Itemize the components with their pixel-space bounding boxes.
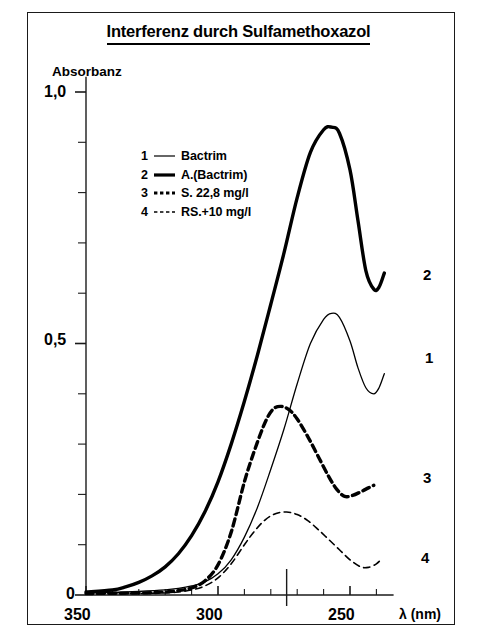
- plot-area: [0, 0, 477, 640]
- legend-number: 4: [141, 205, 154, 219]
- y-tick-label-0: 0: [66, 585, 75, 603]
- y-tick-label-05: 0,5: [44, 331, 66, 349]
- curve-3: [86, 406, 374, 593]
- legend-label: S. 22,8 mg/l: [181, 186, 249, 200]
- x-tick-label-350: 350: [64, 606, 91, 624]
- legend-swatch-thick-solid: [154, 169, 175, 181]
- curve-1: [86, 313, 384, 593]
- legend-item: 2 A.(Bactrim): [141, 166, 251, 185]
- legend-number: 1: [141, 149, 154, 163]
- legend-label: RS.+10 mg/l: [181, 205, 251, 219]
- legend-number: 2: [141, 168, 154, 182]
- x-axis-title: λ (nm): [399, 606, 441, 622]
- legend-item: 3 S. 22,8 mg/l: [141, 184, 251, 203]
- curve-end-label-1: 1: [425, 349, 433, 366]
- legend-swatch-thin-solid: [154, 150, 175, 162]
- legend-number: 3: [141, 186, 154, 200]
- legend: 1 Bactrim 2 A.(Bactrim) 3 S. 22,8 mg/l 4: [141, 147, 251, 221]
- figure-root: Interferenz durch Sulfamethoxazol Absorb…: [0, 0, 477, 640]
- x-tick-label-300: 300: [196, 606, 223, 624]
- legend-label: A.(Bactrim): [181, 168, 247, 182]
- legend-swatch-thick-dash: [154, 187, 175, 199]
- curve-end-label-2: 2: [423, 266, 431, 283]
- x-tick-label-250: 250: [328, 606, 355, 624]
- legend-item: 1 Bactrim: [141, 147, 251, 166]
- y-tick-label-1: 1,0: [44, 83, 66, 101]
- legend-swatch-thin-dash: [154, 206, 175, 218]
- curve-end-label-3: 3: [423, 469, 431, 486]
- curve-end-label-4: 4: [421, 549, 429, 566]
- legend-label: Bactrim: [181, 149, 227, 163]
- legend-item: 4 RS.+10 mg/l: [141, 203, 251, 222]
